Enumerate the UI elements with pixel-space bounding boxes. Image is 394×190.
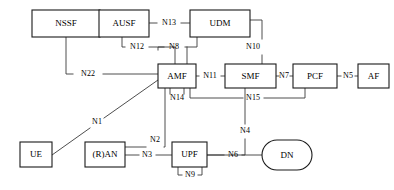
node-label-amf: AMF (167, 71, 187, 81)
nodes-layer: NSSFAUSFUDMAMFSMFPCFAFUE(R)ANUPFDN (20, 10, 389, 170)
node-udm[interactable]: UDM (190, 10, 250, 37)
interface-label-n6: N6 (228, 150, 238, 159)
node-upf[interactable]: UPF (172, 142, 207, 167)
interface-label-n7: N7 (279, 71, 289, 80)
node-dn[interactable]: DN (262, 140, 312, 170)
link-n22 (66, 37, 158, 74)
node-label-af: AF (368, 71, 380, 81)
interface-label-n3: N3 (142, 150, 152, 159)
interface-label-n11: N11 (203, 71, 216, 80)
network-architecture-diagram: NSSFAUSFUDMAMFSMFPCFAFUE(R)ANUPFDN N13N1… (0, 0, 394, 190)
node-nssf[interactable]: NSSF (32, 10, 100, 37)
interface-label-n12: N12 (130, 42, 144, 51)
node-ausf[interactable]: AUSF (99, 10, 149, 37)
node-label-udm: UDM (209, 18, 230, 28)
node-label-ausf: AUSF (112, 18, 135, 28)
interface-label-n10: N10 (246, 42, 260, 51)
interface-label-n13: N13 (162, 18, 176, 27)
interface-label-n8: N8 (169, 42, 179, 51)
interface-label-n9: N9 (185, 170, 195, 179)
interface-label-n4: N4 (240, 126, 250, 135)
node-label-nssf: NSSF (55, 18, 77, 28)
node-label-smf: SMF (241, 71, 259, 81)
node-pcf[interactable]: PCF (293, 64, 337, 88)
interface-label-n5: N5 (343, 71, 353, 80)
node-amf[interactable]: AMF (158, 64, 196, 88)
interface-label-n2: N2 (150, 135, 160, 144)
interface-label-n22: N22 (81, 69, 95, 78)
node-ran[interactable]: (R)AN (85, 142, 125, 167)
node-label-upf: UPF (181, 149, 198, 159)
node-label-dn: DN (281, 150, 294, 160)
node-smf[interactable]: SMF (225, 64, 276, 88)
node-ue[interactable]: UE (20, 142, 52, 167)
node-label-pcf: PCF (307, 71, 323, 81)
node-af[interactable]: AF (358, 64, 389, 88)
interface-label-n1: N1 (92, 117, 102, 126)
node-label-ue: UE (30, 149, 42, 159)
node-label-ran: (R)AN (93, 149, 118, 159)
interface-label-n15: N15 (246, 93, 260, 102)
interface-label-n14: N14 (170, 93, 184, 102)
